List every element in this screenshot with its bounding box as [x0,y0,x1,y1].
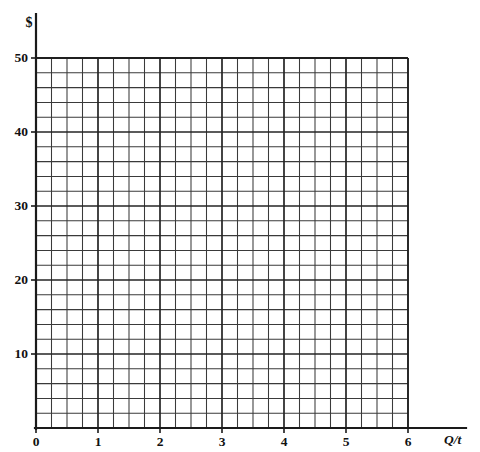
graph-paper-figure: 1020304050 0123456 $ Q/t [0,0,480,452]
x-axis-tick-label: 1 [95,434,102,449]
x-axis-tick-label: 2 [157,434,164,449]
y-axis-title: $ [26,15,33,30]
y-axis-tick-label: 10 [15,346,29,361]
x-axis-tick-label: 5 [343,434,350,449]
y-axis-tick-label: 40 [15,124,29,139]
plot-canvas: 1020304050 0123456 $ Q/t [0,0,480,452]
y-axis-tick-label: 20 [15,272,29,287]
x-axis-tick-label: 4 [281,434,288,449]
x-axis-title: Q/t [444,432,463,447]
y-axis-tick-label: 30 [15,198,29,213]
x-axis-tick-label: 3 [219,434,226,449]
y-axis-tick-label: 50 [15,50,29,65]
x-axis-tick-label: 6 [405,434,412,449]
x-axis-tick-label: 0 [33,434,40,449]
